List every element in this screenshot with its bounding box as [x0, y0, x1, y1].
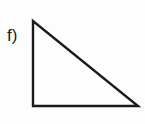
triangle-figure [0, 0, 145, 124]
figure-panel: f) [0, 0, 145, 124]
right-triangle-shape [33, 21, 138, 106]
